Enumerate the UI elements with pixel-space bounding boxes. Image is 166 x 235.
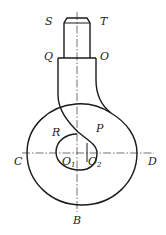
label-t: T [100,15,109,28]
label-o: O [100,50,109,63]
label-o2: O2 [88,155,102,169]
label-r: R [51,126,60,139]
outer-circle [27,104,137,205]
upper-shank [64,18,90,58]
label-p: P [95,122,104,135]
label-s: S [45,15,53,28]
label-q: Q [44,50,53,63]
label-c: C [14,155,23,168]
label-o1: O1 [62,155,76,169]
right-shank-curve [96,58,111,113]
label-b: B [72,214,81,227]
hook-drawing: S T Q O R P C D O1 O2 B [0,0,166,235]
diagram-canvas: S T Q O R P C D O1 O2 B [0,0,166,235]
label-d: D [147,155,157,168]
